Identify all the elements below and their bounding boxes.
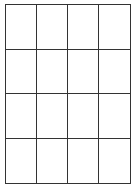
grid-cell-r3-c1 [6,94,37,139]
grid-cell-r1-c3 [68,5,99,50]
grid-cell-r2-c2 [37,50,68,95]
grid-container [5,4,131,184]
grid-cell-r1-c2 [37,5,68,50]
grid-cell-r4-c4 [99,139,130,184]
grid-cell-r4-c1 [6,139,37,184]
grid-cell-r3-c2 [37,94,68,139]
grid-cell-r2-c3 [68,50,99,95]
grid-cell-r1-c1 [6,5,37,50]
grid-cell-r1-c4 [99,5,130,50]
grid-cell-r3-c3 [68,94,99,139]
grid-cell-r2-c4 [99,50,130,95]
grid-cell-r4-c2 [37,139,68,184]
grid-cell-r4-c3 [68,139,99,184]
grid-cell-r3-c4 [99,94,130,139]
grid-cell-r2-c1 [6,50,37,95]
grid-table [5,4,131,184]
